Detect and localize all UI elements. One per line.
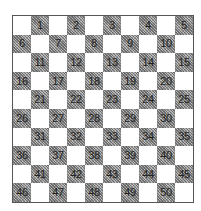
light-square[interactable] (121, 165, 139, 184)
light-square[interactable] (31, 183, 49, 202)
light-square[interactable] (103, 183, 121, 202)
dark-square[interactable]: 35 (175, 128, 193, 147)
light-square[interactable] (175, 109, 193, 128)
light-square[interactable] (175, 183, 193, 202)
dark-square[interactable]: 13 (103, 53, 121, 72)
dark-square[interactable]: 31 (31, 128, 49, 147)
dark-square[interactable]: 49 (121, 183, 139, 202)
light-square[interactable] (103, 72, 121, 91)
light-square[interactable] (103, 35, 121, 54)
light-square[interactable] (49, 165, 67, 184)
dark-square[interactable]: 7 (49, 35, 67, 54)
dark-square[interactable]: 48 (85, 183, 103, 202)
dark-square[interactable]: 17 (49, 72, 67, 91)
dark-square[interactable]: 5 (175, 16, 193, 35)
light-square[interactable] (175, 146, 193, 165)
dark-square[interactable]: 4 (139, 16, 157, 35)
dark-square[interactable]: 47 (49, 183, 67, 202)
light-square[interactable] (13, 128, 31, 147)
dark-square[interactable]: 12 (67, 53, 85, 72)
dark-square[interactable]: 14 (139, 53, 157, 72)
light-square[interactable] (31, 109, 49, 128)
dark-square[interactable]: 39 (121, 146, 139, 165)
dark-square[interactable]: 25 (175, 90, 193, 109)
dark-square[interactable]: 30 (157, 109, 175, 128)
light-square[interactable] (67, 146, 85, 165)
light-square[interactable] (139, 183, 157, 202)
light-square[interactable] (67, 72, 85, 91)
light-square[interactable] (13, 165, 31, 184)
light-square[interactable] (31, 35, 49, 54)
light-square[interactable] (175, 35, 193, 54)
light-square[interactable] (121, 90, 139, 109)
light-square[interactable] (103, 109, 121, 128)
dark-square[interactable]: 20 (157, 72, 175, 91)
dark-square[interactable]: 1 (31, 16, 49, 35)
dark-square[interactable]: 29 (121, 109, 139, 128)
dark-square[interactable]: 28 (85, 109, 103, 128)
dark-square[interactable]: 46 (13, 183, 31, 202)
dark-square[interactable]: 10 (157, 35, 175, 54)
light-square[interactable] (139, 109, 157, 128)
light-square[interactable] (49, 53, 67, 72)
dark-square[interactable]: 22 (67, 90, 85, 109)
light-square[interactable] (121, 53, 139, 72)
light-square[interactable] (85, 90, 103, 109)
light-square[interactable] (85, 53, 103, 72)
dark-square[interactable]: 19 (121, 72, 139, 91)
light-square[interactable] (175, 72, 193, 91)
dark-square[interactable]: 18 (85, 72, 103, 91)
light-square[interactable] (31, 146, 49, 165)
light-square[interactable] (31, 72, 49, 91)
light-square[interactable] (49, 16, 67, 35)
dark-square[interactable]: 23 (103, 90, 121, 109)
light-square[interactable] (157, 128, 175, 147)
light-square[interactable] (13, 90, 31, 109)
light-square[interactable] (85, 128, 103, 147)
dark-square[interactable]: 38 (85, 146, 103, 165)
light-square[interactable] (139, 146, 157, 165)
dark-square[interactable]: 11 (31, 53, 49, 72)
dark-square[interactable]: 9 (121, 35, 139, 54)
light-square[interactable] (67, 35, 85, 54)
dark-square[interactable]: 15 (175, 53, 193, 72)
dark-square[interactable]: 2 (67, 16, 85, 35)
dark-square[interactable]: 40 (157, 146, 175, 165)
dark-square[interactable]: 16 (13, 72, 31, 91)
dark-square[interactable]: 8 (85, 35, 103, 54)
dark-square[interactable]: 27 (49, 109, 67, 128)
light-square[interactable] (67, 109, 85, 128)
dark-square[interactable]: 32 (67, 128, 85, 147)
dark-square[interactable]: 33 (103, 128, 121, 147)
light-square[interactable] (139, 35, 157, 54)
light-square[interactable] (13, 16, 31, 35)
light-square[interactable] (139, 72, 157, 91)
dark-square[interactable]: 34 (139, 128, 157, 147)
dark-square[interactable]: 37 (49, 146, 67, 165)
light-square[interactable] (121, 16, 139, 35)
light-square[interactable] (85, 165, 103, 184)
dark-square[interactable]: 21 (31, 90, 49, 109)
light-square[interactable] (157, 53, 175, 72)
light-square[interactable] (13, 53, 31, 72)
light-square[interactable] (49, 128, 67, 147)
light-square[interactable] (121, 128, 139, 147)
light-square[interactable] (103, 146, 121, 165)
dark-square[interactable]: 50 (157, 183, 175, 202)
dark-square[interactable]: 42 (67, 165, 85, 184)
dark-square[interactable]: 36 (13, 146, 31, 165)
dark-square[interactable]: 26 (13, 109, 31, 128)
light-square[interactable] (157, 16, 175, 35)
dark-square[interactable]: 3 (103, 16, 121, 35)
light-square[interactable] (85, 16, 103, 35)
light-square[interactable] (49, 90, 67, 109)
light-square[interactable] (157, 90, 175, 109)
dark-square[interactable]: 41 (31, 165, 49, 184)
light-square[interactable] (157, 165, 175, 184)
dark-square[interactable]: 44 (139, 165, 157, 184)
dark-square[interactable]: 43 (103, 165, 121, 184)
dark-square[interactable]: 6 (13, 35, 31, 54)
dark-square[interactable]: 24 (139, 90, 157, 109)
light-square[interactable] (67, 183, 85, 202)
dark-square[interactable]: 45 (175, 165, 193, 184)
